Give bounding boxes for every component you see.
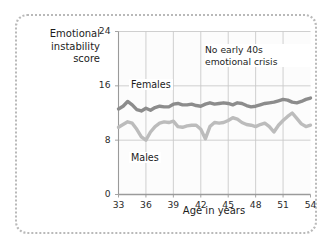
- series-label-males: Males: [129, 152, 161, 163]
- series-label-females: Females: [129, 79, 173, 90]
- y-axis-title-line-2: instability: [24, 41, 100, 54]
- y-tick-label: 24: [89, 25, 111, 36]
- chart-annotation-line-1: No early 40s: [205, 44, 311, 56]
- figure-container: Emotional instability score 081624 33363…: [0, 0, 332, 249]
- chart-annotation-line-2: emotional crisis: [205, 56, 311, 68]
- y-tick-label: 16: [89, 79, 111, 90]
- x-axis-title: Age in years: [118, 205, 310, 216]
- y-tick-label: 0: [89, 188, 111, 199]
- y-tick-label: 8: [89, 134, 111, 145]
- chart-annotation: No early 40s emotional crisis: [205, 44, 311, 67]
- y-axis-title-line-3: score: [24, 53, 100, 66]
